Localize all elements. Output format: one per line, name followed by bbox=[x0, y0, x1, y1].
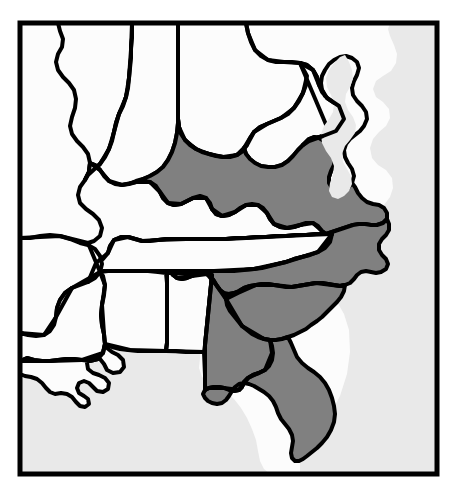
state-mississippi bbox=[100, 271, 167, 351]
map-figure bbox=[0, 0, 458, 494]
state-boundary-line bbox=[166, 271, 167, 351]
map-canvas bbox=[0, 0, 458, 494]
